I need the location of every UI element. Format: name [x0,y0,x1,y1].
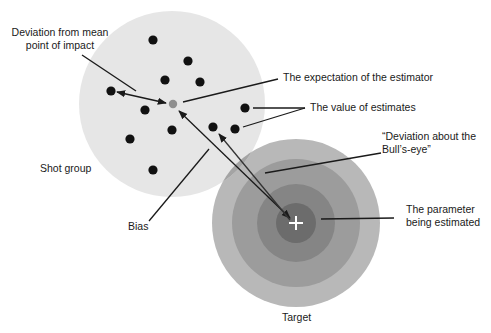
label-deviation-mean-line2: point of impact [6,39,114,52]
shot-dot [183,56,192,65]
mean-point-dot [169,100,177,108]
label-bullseye-deviation: “Deviation about the Bull’s-eye” [382,130,476,156]
label-bullseye-line1: “Deviation about the [382,130,476,143]
shot-dot [208,122,217,131]
shot-dot [240,103,249,112]
label-deviation-mean-line1: Deviation from mean [6,26,114,39]
label-bullseye-line2: Bull’s-eye” [382,143,476,156]
shot-dot [148,35,157,44]
shot-dot [195,77,204,86]
shot-dot [125,134,134,143]
shot-dot [148,165,157,174]
label-parameter-line2: being estimated [406,216,480,229]
label-parameter: The parameter being estimated [406,203,480,229]
label-value-estimates: The value of estimates [310,101,416,114]
label-deviation-mean: Deviation from mean point of impact [6,26,114,52]
shot-dot [160,75,169,84]
shot-dot [167,125,176,134]
label-shot-group: Shot group [40,162,91,175]
label-parameter-line1: The parameter [406,203,480,216]
shot-dot [230,124,239,133]
shot-dot [106,86,115,95]
shot-dot [140,105,149,114]
label-bias: Bias [128,220,148,233]
label-expectation: The expectation of the estimator [283,71,433,84]
label-target: Target [282,311,311,324]
